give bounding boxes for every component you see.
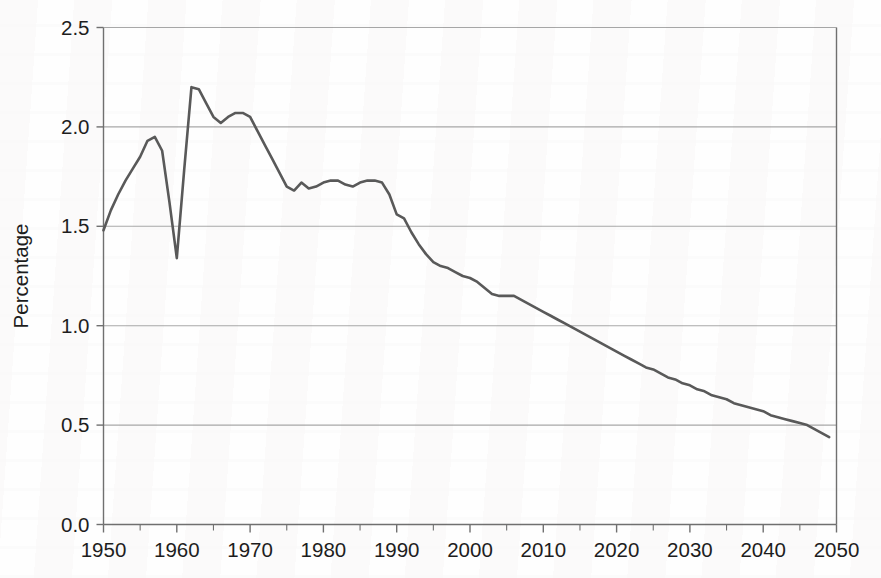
chart-container: 0.00.51.01.52.02.5 195019601970198019902… bbox=[0, 0, 881, 578]
y-tick-label-0.5: 0.5 bbox=[61, 413, 90, 436]
y-axis-title: Percentage bbox=[9, 224, 32, 329]
x-tick-label-2010: 2010 bbox=[520, 538, 566, 561]
x-tick-label-1960: 1960 bbox=[154, 538, 200, 561]
x-tick-label-1970: 1970 bbox=[227, 538, 273, 561]
y-axis-label: Percentage bbox=[9, 224, 32, 329]
x-axis-tick-labels: 1950196019701980199020002010202020302040… bbox=[81, 538, 860, 561]
x-tick-label-2000: 2000 bbox=[447, 538, 493, 561]
chart-background bbox=[0, 0, 881, 578]
x-tick-label-2030: 2030 bbox=[667, 538, 713, 561]
x-tick-label-1990: 1990 bbox=[374, 538, 420, 561]
y-tick-label-1.5: 1.5 bbox=[61, 214, 90, 237]
y-tick-label-0.0: 0.0 bbox=[61, 513, 90, 536]
x-tick-label-1980: 1980 bbox=[301, 538, 347, 561]
line-chart: 0.00.51.01.52.02.5 195019601970198019902… bbox=[0, 0, 881, 578]
x-tick-label-1950: 1950 bbox=[81, 538, 127, 561]
y-tick-label-2.5: 2.5 bbox=[61, 16, 90, 39]
x-tick-label-2020: 2020 bbox=[594, 538, 640, 561]
y-tick-label-2.0: 2.0 bbox=[61, 115, 90, 138]
x-tick-label-2050: 2050 bbox=[814, 538, 860, 561]
y-tick-label-1.0: 1.0 bbox=[61, 314, 90, 337]
x-tick-label-2040: 2040 bbox=[740, 538, 786, 561]
